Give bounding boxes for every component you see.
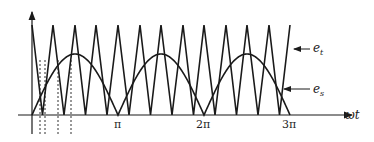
spwm-diagram: π 2π 3π ωt et es — [0, 0, 374, 142]
tick-label-pi: π — [114, 118, 121, 131]
carrier-label: et — [313, 41, 323, 57]
x-axis-label: ωt — [345, 108, 360, 122]
waveform-plot — [0, 0, 374, 142]
signal-label: es — [313, 82, 324, 98]
label-pointer-arrows — [284, 49, 310, 89]
carrier-label-sub: t — [320, 48, 323, 57]
tick-label-3pi: 3π — [282, 118, 296, 131]
signal-label-sub: s — [320, 89, 324, 98]
tick-label-2pi: 2π — [196, 118, 210, 131]
axes — [18, 12, 352, 134]
